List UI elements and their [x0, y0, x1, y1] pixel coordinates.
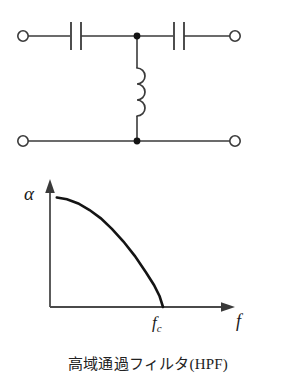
top-node-junction-dot [134, 33, 141, 40]
x-axis-arrowhead [221, 302, 235, 312]
cutoff-frequency-label: fc [152, 313, 162, 334]
response-plot [45, 179, 235, 312]
output-terminal-right [230, 31, 240, 41]
input-terminal-left-bottom [18, 136, 28, 146]
figure-caption: 高域通過フィルタ(HPF) [0, 356, 296, 373]
output-terminal-right-bottom [230, 136, 240, 146]
input-terminal-left [18, 31, 28, 41]
x-axis-label-f: f [236, 311, 241, 332]
figure-root: α f fc 高域通過フィルタ(HPF) [0, 0, 296, 390]
bottom-node-junction-dot [134, 138, 141, 145]
y-axis-arrowhead [45, 179, 55, 193]
circuit-schematic [18, 22, 240, 146]
y-axis-label-alpha: α [24, 183, 34, 205]
figure-canvas [0, 0, 296, 390]
attenuation-curve [57, 198, 163, 307]
shunt-inductor-coil [137, 68, 145, 116]
cutoff-frequency-subscript: c [157, 322, 162, 334]
